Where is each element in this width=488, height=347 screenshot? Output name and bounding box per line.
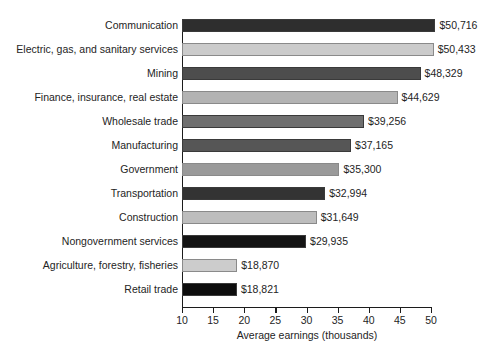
bar-value-label: $18,870 — [241, 259, 279, 272]
bar — [182, 211, 317, 224]
x-axis-tick — [338, 308, 339, 313]
x-axis-tick — [369, 308, 370, 313]
x-axis-tick — [244, 308, 245, 313]
category-label: Retail trade — [124, 283, 178, 296]
bar — [182, 67, 421, 80]
category-label: Wholesale trade — [102, 115, 178, 128]
category-label: Mining — [147, 67, 178, 80]
x-axis-tick — [431, 308, 432, 313]
x-axis-tick-label: 40 — [363, 314, 375, 326]
category-label: Nongovernment services — [62, 235, 178, 248]
bar-value-label: $35,300 — [343, 163, 381, 176]
bar-value-label: $31,649 — [321, 211, 359, 224]
bar — [182, 163, 339, 176]
bar-value-label: $48,329 — [425, 67, 463, 80]
x-axis-tick — [400, 308, 401, 313]
bar-value-label: $50,716 — [439, 19, 477, 32]
x-axis-tick-label: 15 — [207, 314, 219, 326]
bar — [182, 139, 351, 152]
category-label: Construction — [119, 211, 178, 224]
bar — [182, 259, 237, 272]
bar — [182, 283, 237, 296]
category-label: Electric, gas, and sanitary services — [16, 43, 178, 56]
x-axis-title: Average earnings (thousands) — [182, 329, 432, 341]
category-label: Finance, insurance, real estate — [34, 91, 178, 104]
x-axis-tick-label: 20 — [238, 314, 250, 326]
category-label: Transportation — [111, 187, 178, 200]
x-axis-tick-label: 10 — [176, 314, 188, 326]
x-axis-tick-label: 35 — [332, 314, 344, 326]
category-label-column: Communication Electric, gas, and sanitar… — [0, 0, 178, 347]
category-label: Agriculture, forestry, fisheries — [43, 259, 178, 272]
category-label: Government — [120, 163, 178, 176]
bar — [182, 115, 364, 128]
category-label: Communication — [105, 19, 178, 32]
x-axis-tick — [213, 308, 214, 313]
bar-value-label: $32,994 — [329, 187, 367, 200]
bar — [182, 19, 435, 32]
bar — [182, 91, 398, 104]
x-axis-tick — [307, 308, 308, 313]
bar-chart: Communication Electric, gas, and sanitar… — [0, 0, 488, 347]
category-label: Manufacturing — [111, 139, 178, 152]
bar — [182, 235, 306, 248]
x-axis-tick — [275, 308, 276, 313]
x-axis-tick — [182, 308, 183, 313]
x-axis-tick-label: 50 — [425, 314, 437, 326]
bar-value-label: $29,935 — [310, 235, 348, 248]
x-axis-tick-label: 25 — [270, 314, 282, 326]
bar-value-label: $44,629 — [402, 91, 440, 104]
plot-area: $50,716$50,433$48,329$44,629$39,256$37,1… — [182, 0, 488, 347]
bar — [182, 43, 434, 56]
bar — [182, 187, 325, 200]
bar-value-label: $18,821 — [241, 283, 279, 296]
x-axis-tick-label: 30 — [301, 314, 313, 326]
bar-value-label: $37,165 — [355, 139, 393, 152]
bar-value-label: $39,256 — [368, 115, 406, 128]
x-axis-tick-label: 45 — [394, 314, 406, 326]
bar-value-label: $50,433 — [438, 43, 476, 56]
